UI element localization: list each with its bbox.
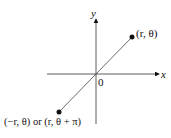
radius-line xyxy=(59,37,132,112)
y-axis-label: y xyxy=(90,7,96,19)
origin-label: 0 xyxy=(98,76,104,88)
polar-diagram: x y 0 (r, θ) (−r, θ) or (r, θ + π) xyxy=(0,0,171,138)
point-r-theta xyxy=(130,35,135,40)
point-neg-r-theta-label: (−r, θ) or (r, θ + π) xyxy=(4,116,82,128)
point-r-theta-label: (r, θ) xyxy=(136,27,158,40)
point-neg-r-theta xyxy=(57,110,62,115)
x-axis-label: x xyxy=(160,68,166,80)
